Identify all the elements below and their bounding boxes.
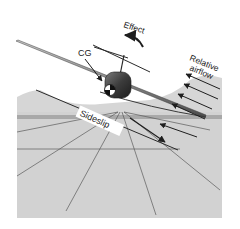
- fuselage: [105, 72, 132, 98]
- effect-arrow: [125, 35, 143, 47]
- cg-label: CG: [78, 48, 92, 58]
- effect-label: Effect: [122, 19, 146, 35]
- sideslip-diagram: CG Effect Relative airflow Sideslip: [0, 0, 240, 229]
